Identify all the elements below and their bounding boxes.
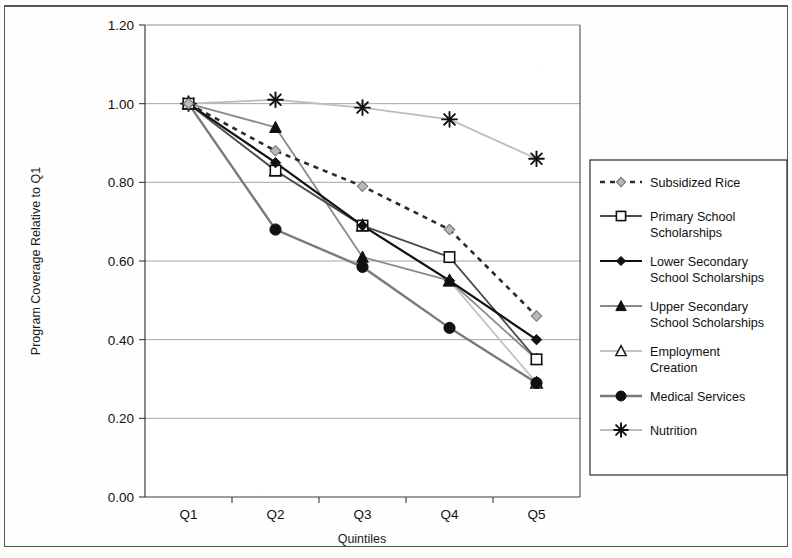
data-point-marker [357, 261, 368, 272]
legend-label: Employment [650, 345, 720, 359]
y-tick-label: 0.80 [108, 175, 134, 190]
x-tick-label: Q3 [353, 507, 371, 522]
marker-circle-filled [270, 224, 281, 235]
y-tick-label: 0.60 [108, 254, 134, 269]
y-axis-ticks: 0.000.200.400.600.801.001.20 [108, 18, 145, 505]
data-point-marker [355, 100, 370, 115]
data-point-marker [531, 354, 541, 364]
x-tick-label: Q1 [179, 507, 197, 522]
legend-label: Nutrition [650, 424, 697, 438]
marker-circle-filled [444, 322, 455, 333]
legend-label: Creation [650, 361, 698, 375]
marker-square-open [531, 354, 541, 364]
y-tick-label: 0.20 [108, 411, 134, 426]
x-tick-label: Q5 [527, 507, 545, 522]
y-axis-title: Program Coverage Relative to Q1 [29, 167, 43, 355]
data-point-marker [268, 92, 283, 107]
data-point-marker [616, 391, 626, 401]
data-point-marker [444, 252, 454, 262]
legend-label: Scholarships [650, 226, 722, 240]
y-tick-label: 0.40 [108, 333, 134, 348]
data-point-marker [614, 423, 628, 437]
y-tick-label: 0.00 [108, 490, 134, 505]
data-point-marker [442, 112, 457, 127]
legend-label: Lower Secondary [650, 255, 749, 269]
legend-label: School Scholarships [650, 316, 764, 330]
data-point-marker [531, 377, 542, 388]
scanned-page: 0.000.200.400.600.801.001.20 Q1Q2Q3Q4Q5 … [0, 0, 792, 558]
data-point-marker [529, 151, 544, 166]
legend-label: Primary School [650, 210, 735, 224]
x-tick-label: Q4 [440, 507, 459, 522]
chart-figure: 0.000.200.400.600.801.001.20 Q1Q2Q3Q4Q5 … [0, 0, 792, 558]
x-axis-title: Quintiles [338, 532, 387, 546]
x-tick-label: Q2 [266, 507, 284, 522]
line-chart: 0.000.200.400.600.801.001.20 Q1Q2Q3Q4Q5 … [0, 0, 792, 558]
y-tick-label: 1.00 [108, 97, 134, 112]
legend-label: Upper Secondary [650, 300, 749, 314]
marker-square-open [616, 211, 625, 220]
legend-label: Subsidized Rice [650, 176, 740, 190]
legend-label: Medical Services [650, 390, 745, 404]
data-point-marker [270, 224, 281, 235]
x-axis-ticks: Q1Q2Q3Q4Q5 [179, 497, 545, 522]
marker-circle-filled [357, 261, 368, 272]
legend-label: School Scholarships [650, 271, 764, 285]
data-point-marker [444, 322, 455, 333]
y-tick-label: 1.20 [108, 18, 134, 33]
marker-circle-filled [616, 391, 626, 401]
marker-square-open [444, 252, 454, 262]
marker-circle-filled [531, 377, 542, 388]
data-point-marker [616, 211, 625, 220]
